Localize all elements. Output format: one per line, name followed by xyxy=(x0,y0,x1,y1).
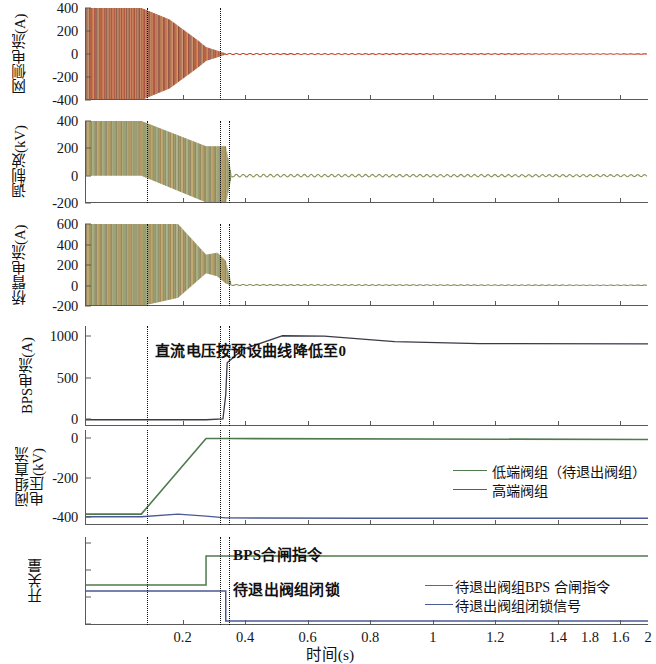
ylabel-bridge-arm-current: 桥臂电流(A) xyxy=(9,224,27,306)
xtick-8: 1.8 xyxy=(581,629,599,646)
figure-root: 400 200 0 -200 -400 网侧电流(A) 400 200 0 -2… xyxy=(0,0,656,664)
ylabel-valve-line2: 电压(kV) xyxy=(30,449,46,507)
xtick-4: 1 xyxy=(429,629,436,646)
annotation-bps-close-command: BPS合闸指令 xyxy=(233,543,323,564)
xtick-1: 0.4 xyxy=(236,629,254,646)
legend-swatch-low-valve-group xyxy=(453,470,487,471)
panel-grid-current: 400 200 0 -200 -400 xyxy=(85,8,648,100)
ytick-p2-1: 200 xyxy=(57,140,85,157)
ylabel-modulation-wave: 调制波(kV) xyxy=(9,121,27,203)
legend-label-bps-close-command: 待退出阀组BPS 合闸指令 xyxy=(455,576,610,596)
panel-modulation-wave-axes xyxy=(85,121,648,203)
annotation-valve-group-block: 待退出阀组闭锁 xyxy=(233,578,340,599)
ytick-p5-2: -400 xyxy=(52,509,85,526)
ytick-p2-3: -200 xyxy=(52,195,85,212)
ytick-p3-2: 200 xyxy=(57,257,85,274)
ytick-p3-0: 600 xyxy=(57,216,85,233)
legend-swatch-block-signal xyxy=(425,604,453,605)
xtick-6: 1.4 xyxy=(549,629,567,646)
panel-grid-current-axes xyxy=(85,8,648,100)
ytick-p3-3: 0 xyxy=(71,277,85,294)
legend-swatch-high-valve-group xyxy=(453,489,487,490)
panel-modulation-wave: 400 200 0 -200 xyxy=(85,121,648,203)
xtick-9: 2 xyxy=(644,629,651,646)
panel-bridge-arm-current: 600 400 200 0 -200 xyxy=(85,224,648,306)
panel-bridge-arm-current-axes xyxy=(85,224,648,306)
xtick-0: 0.2 xyxy=(174,629,192,646)
legend-label-block-signal: 待退出阀组闭锁信号 xyxy=(455,595,581,615)
ylabel-grid-current: 网侧电流(A) xyxy=(9,8,27,100)
ytick-p3-1: 400 xyxy=(57,236,85,253)
annotation-dc-voltage-ramp: 直流电压按预设曲线降低至0 xyxy=(155,339,346,360)
ytick-p5-1: -200 xyxy=(52,469,85,486)
legend-swatch-bps-close-command xyxy=(425,585,453,586)
legend-item-block-signal: 待退出阀组闭锁信号 xyxy=(425,595,610,614)
ytick-p1-0: 400 xyxy=(57,0,85,17)
xtick-7: 1.6 xyxy=(611,629,629,646)
ytick-p5-0: 0 xyxy=(71,429,85,446)
ylabel-valve-group-dc-voltage: 阀组直流 电压(kV) xyxy=(16,430,50,525)
xtick-3: 0.8 xyxy=(361,629,379,646)
ylabel-switching-signals: 开关量 xyxy=(25,537,43,625)
legend-item-high-valve-group: 高端阀组 xyxy=(453,480,646,499)
ytick-p1-3: -200 xyxy=(52,69,85,86)
legend-label-low-valve-group: 低端阀组（待退出阀组） xyxy=(492,461,646,481)
ytick-p4-1: 500 xyxy=(57,369,85,386)
ylabel-valve-line1: 阀组直流 xyxy=(15,448,31,508)
legend-valve-group-dc-voltage: 低端阀组（待退出阀组） 高端阀组 xyxy=(453,461,646,499)
ytick-p1-2: 0 xyxy=(71,46,85,63)
ytick-p3-4: -200 xyxy=(52,298,85,315)
legend-label-high-valve-group: 高端阀组 xyxy=(492,480,548,500)
xtick-5: 1.2 xyxy=(486,629,504,646)
legend-item-bps-close-command: 待退出阀组BPS 合闸指令 xyxy=(425,576,610,595)
ytick-p2-0: 400 xyxy=(57,113,85,130)
ylabel-bps-current: BPS电流(A) xyxy=(16,326,34,426)
legend-switching-signals: 待退出阀组BPS 合闸指令 待退出阀组闭锁信号 xyxy=(425,576,610,614)
ytick-p2-2: 0 xyxy=(71,167,85,184)
legend-item-low-valve-group: 低端阀组（待退出阀组） xyxy=(453,461,646,480)
ytick-p4-2: 0 xyxy=(71,411,85,428)
ytick-p1-4: -400 xyxy=(52,92,85,109)
ytick-p1-1: 200 xyxy=(57,23,85,40)
xaxis-label: 时间(s) xyxy=(306,642,354,664)
ytick-p4-0: 1000 xyxy=(50,328,85,345)
